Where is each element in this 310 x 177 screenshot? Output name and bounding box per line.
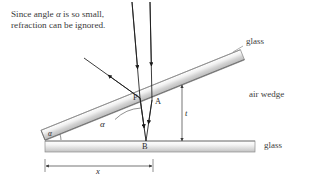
top-glass-plate — [41, 50, 244, 141]
reflected-ray-from-p — [84, 58, 140, 98]
incident-ray-2 — [150, 2, 152, 100]
air-wedge-label: air wedge — [249, 89, 284, 100]
annotation-line2: refraction can be ignored. — [11, 20, 105, 30]
point-a-label: A — [155, 97, 161, 107]
ray-b-to-p-arrow — [140, 98, 144, 128]
air-wedge-diagram: Since angle α is so small, refraction ca… — [0, 0, 310, 177]
ray-a-to-b — [146, 100, 152, 141]
annotation-note: Since angle α is so small, refraction ca… — [11, 9, 105, 31]
ray-a-to-b-arrow — [148, 100, 152, 124]
annotation-line1-post: is so small, — [61, 9, 104, 19]
apex-angle-arc — [60, 134, 61, 140]
glass-top-label: glass — [246, 36, 264, 47]
point-p-label: P — [133, 93, 138, 103]
top-glass-lower-surface — [45, 59, 244, 140]
bottom-glass-body — [45, 141, 255, 152]
apex-arc-stroke — [60, 134, 61, 140]
incident-ray-1 — [132, 2, 140, 98]
ray-b-to-p — [140, 98, 146, 141]
wedge-angle-label: α — [100, 119, 105, 130]
point-b-label: B — [142, 142, 148, 152]
glass-bottom-label: glass — [264, 140, 282, 151]
thickness-label: t — [185, 108, 187, 118]
top-glass-upper-surface — [41, 50, 240, 131]
top-glass-body — [41, 50, 244, 141]
bottom-glass-plate — [45, 141, 255, 152]
incident-ray-1-arrow — [132, 2, 138, 69]
annotation-line1-pre: Since angle — [11, 9, 56, 19]
apex-angle-label: α — [48, 130, 52, 139]
distance-label: x — [96, 166, 100, 176]
